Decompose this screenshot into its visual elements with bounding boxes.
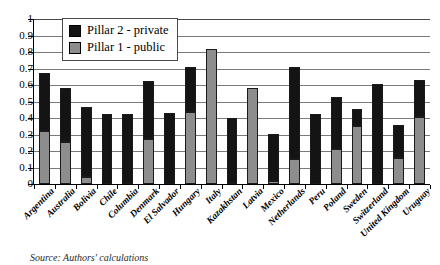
x-axis-labels: ArgentinaAustraliaBoliviaChileColumbiaDe…	[0, 186, 440, 248]
bar-group	[352, 19, 363, 184]
bar-group	[185, 19, 196, 184]
bar-group	[289, 19, 300, 184]
bar-group	[268, 19, 279, 184]
y-axis-tick-label: 0.7	[0, 63, 33, 74]
bar-group	[39, 19, 50, 184]
bar-segment-public	[143, 139, 154, 184]
legend-swatch-private-icon	[69, 25, 81, 37]
y-axis-tick-label: 0.8	[0, 46, 33, 57]
bar-group	[414, 19, 425, 184]
bar-segment-public	[60, 142, 71, 184]
y-axis-tick-label: 0.6	[0, 79, 33, 90]
y-axis-tick-label: 0.5	[0, 96, 33, 107]
y-axis-tick-label: 0.3	[0, 129, 33, 140]
bar-group	[227, 19, 238, 184]
bar-segment-private	[227, 118, 238, 184]
bar-group	[206, 19, 217, 184]
bar-group	[247, 19, 258, 184]
legend-label-private: Pillar 2 - private	[87, 24, 169, 37]
bar-segment-private	[289, 67, 300, 159]
legend-entry: Pillar 2 - private	[69, 22, 169, 39]
y-axis-tick-label: 1	[0, 13, 33, 24]
bar-segment-private	[102, 114, 113, 184]
bar-segment-private	[143, 81, 154, 139]
x-axis-tick-label: Bolivia	[71, 186, 98, 213]
bar-segment-public	[247, 88, 258, 184]
bar-segment-private	[81, 107, 92, 177]
bar-segment-public	[414, 117, 425, 184]
y-axis-tick-label: 0.2	[0, 145, 33, 156]
bar-segment-private	[372, 84, 383, 184]
bar-segment-public	[393, 158, 404, 184]
bar-segment-public	[268, 181, 279, 184]
bar-group	[393, 19, 404, 184]
bar-segment-private	[39, 73, 50, 132]
bar-group	[310, 19, 321, 184]
bar-segment-public	[81, 177, 92, 184]
chart-legend: Pillar 2 - private Pillar 1 - public	[62, 18, 178, 61]
legend-entry: Pillar 1 - public	[69, 39, 169, 56]
bar-segment-private	[331, 97, 342, 149]
bar-segment-private	[164, 113, 175, 184]
bar-segment-private	[268, 134, 279, 181]
source-note: Source: Authors' calculations	[30, 252, 148, 263]
bar-segment-private	[393, 125, 404, 158]
bar-group	[372, 19, 383, 184]
bar-segment-public	[289, 159, 300, 184]
y-axis-tick-label: 0.9	[0, 30, 33, 41]
bar-segment-private	[310, 114, 321, 184]
bar-segment-public	[185, 112, 196, 184]
bar-group	[331, 19, 342, 184]
y-axis-tick-label: 0.4	[0, 112, 33, 123]
bar-segment-public	[206, 49, 217, 184]
bar-segment-private	[122, 114, 133, 184]
y-axis-tick-label: 0.1	[0, 162, 33, 173]
bar-segment-private	[185, 67, 196, 112]
bar-segment-public	[39, 131, 50, 184]
bar-segment-private	[352, 109, 363, 126]
bar-segment-private	[414, 80, 425, 117]
bar-segment-private	[60, 88, 71, 142]
legend-swatch-public-icon	[69, 42, 81, 54]
bar-segment-public	[352, 126, 363, 184]
chart-figure: 10.90.80.70.60.50.40.30.20.10 ArgentinaA…	[0, 0, 440, 265]
bar-segment-public	[331, 149, 342, 184]
legend-label-public: Pillar 1 - public	[87, 41, 165, 54]
